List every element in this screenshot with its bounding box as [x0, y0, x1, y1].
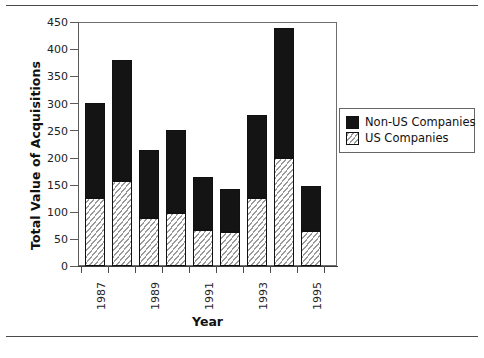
bar-1993 [247, 115, 267, 266]
x-tick-mark [243, 266, 244, 273]
bar-segment-non-us [274, 28, 294, 158]
x-tick-label-1989: 1989 [150, 282, 161, 310]
bar-segment-us [193, 230, 213, 266]
bar-segment-non-us [166, 130, 186, 213]
x-axis-title: Year [78, 314, 337, 329]
y-axis-line [78, 22, 79, 267]
y-tick-label: 300 [28, 99, 68, 110]
bar-segment-us [220, 232, 240, 266]
bar-1988 [112, 60, 132, 266]
page-rule-top [6, 5, 478, 6]
y-tick-label: 50 [28, 234, 68, 245]
x-tick-mark [270, 266, 271, 273]
figure-page: Total Value of Acquisitions 450 400 350 … [0, 0, 484, 358]
y-tick-label: 200 [28, 153, 68, 164]
bar-segment-us [301, 231, 321, 266]
x-tick-mark [135, 266, 136, 273]
bar-segment-non-us [139, 150, 159, 218]
bar-1992 [220, 189, 240, 266]
legend-label-us: US Companies [365, 132, 449, 144]
bar-segment-us [139, 218, 159, 266]
x-tick-mark [297, 266, 298, 273]
bar-segment-non-us [112, 60, 132, 181]
bar-segment-non-us [220, 189, 240, 232]
y-tick-label: 100 [28, 207, 68, 218]
bar-1991 [193, 177, 213, 266]
x-tick-label-1987: 1987 [96, 282, 107, 310]
bar-1990 [166, 130, 186, 266]
x-tick-mark [189, 266, 190, 273]
bar-1987 [85, 103, 105, 266]
legend-swatch-us-icon [346, 132, 359, 145]
y-tick-label: 150 [28, 180, 68, 191]
bar-1989 [139, 150, 159, 266]
legend-item-non-us: Non-US Companies [346, 114, 468, 130]
page-rule-bottom [6, 336, 478, 337]
y-tick-label: 350 [28, 71, 68, 82]
x-tick-mark [162, 266, 163, 273]
y-axis-tick-labels: 450 400 350 300 250 200 150 100 50 0 [26, 0, 68, 280]
bar-segment-us [85, 198, 105, 266]
y-tick-label: 400 [28, 44, 68, 55]
chart-legend: Non-US Companies US Companies [339, 108, 475, 153]
x-tick-mark [81, 266, 82, 273]
y-tick-label: 450 [28, 17, 68, 28]
legend-item-us: US Companies [346, 130, 468, 146]
bar-segment-non-us [247, 115, 267, 198]
x-tick-mark [216, 266, 217, 273]
x-tick-mark [108, 266, 109, 273]
bar-segment-us [247, 198, 267, 266]
y-tick-label: 250 [28, 126, 68, 137]
bar-segment-us [112, 181, 132, 266]
x-tick-mark [324, 266, 325, 273]
x-axis-line [78, 266, 338, 267]
bar-segment-non-us [85, 103, 105, 198]
x-tick-label-1993: 1993 [258, 282, 269, 310]
x-tick-label-1991: 1991 [204, 282, 215, 310]
bar-segment-non-us [193, 177, 213, 230]
bar-segment-us [274, 158, 294, 266]
legend-label-non-us: Non-US Companies [365, 116, 476, 128]
y-tick-label: 0 [28, 261, 68, 272]
bar-1994 [274, 28, 294, 266]
x-tick-label-1995: 1995 [312, 282, 323, 310]
bar-segment-us [166, 213, 186, 266]
bar-segment-non-us [301, 186, 321, 231]
legend-swatch-non-us-icon [346, 116, 359, 129]
bar-1995 [301, 186, 321, 266]
